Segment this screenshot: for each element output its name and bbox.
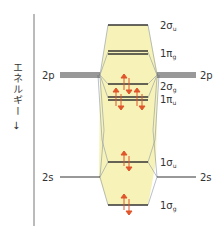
label-2p-left: 2p	[42, 70, 55, 81]
label-1sigma-u: 1σu	[160, 157, 177, 169]
atomic-2p-right	[157, 73, 196, 77]
label-2s-left: 2s	[42, 172, 54, 183]
label-2sigma-u: 2σu	[160, 20, 177, 32]
label-1pi-g: 1πg	[160, 48, 176, 61]
mo-diagram: 2p 2p 2s 2s 2σu 1πg 2σg 1πu 1σu 1σg	[0, 0, 224, 233]
label-2p-right: 2p	[200, 70, 213, 81]
label-1sigma-g: 1σg	[160, 200, 177, 213]
label-1pi-u: 1πu	[160, 94, 176, 106]
label-2sigma-g: 2σg	[160, 81, 177, 94]
atomic-2p-left	[60, 73, 100, 77]
label-2s-right: 2s	[200, 172, 212, 183]
